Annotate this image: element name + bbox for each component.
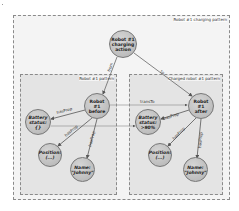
diagram-canvas: Robot #1 charging pattern Robot #1 patte… [0, 0, 239, 211]
node-name-before[interactable]: Name: "Johnny" [70, 157, 95, 182]
edge-label-robot-transto: transTo [140, 99, 155, 104]
node-robot-after[interactable]: Robot #1 after [188, 93, 214, 119]
node-label-battery-after: Battery status: >90% [139, 115, 158, 130]
node-label-name-after: Name: "Johnny" [185, 165, 207, 175]
edge-label-before-name: hasProp [87, 130, 96, 147]
node-label-charging-action: Robot #1 charging action [111, 37, 135, 52]
edge-label-to: to [159, 69, 166, 76]
edge-label-after-position: hasProp [171, 126, 186, 141]
edge-label-after-name: hasProp [197, 131, 203, 148]
node-label-robot-after: Robot #1 after [193, 99, 208, 114]
node-label-name-before: Name: "Johnny" [72, 165, 94, 175]
node-name-after[interactable]: Name: "Johnny" [183, 157, 208, 182]
node-battery-before[interactable]: Battery status: {} [25, 109, 51, 135]
node-charging-action[interactable]: Robot #1 charging action [109, 30, 137, 58]
node-label-robot-before: Robot #1 before [89, 99, 106, 114]
node-position-after[interactable]: Position: (...) [148, 143, 172, 167]
node-robot-before[interactable]: Robot #1 before [84, 93, 110, 119]
node-label-position-after: Position: (...) [149, 150, 171, 160]
edge-before-position [58, 118, 92, 146]
node-position-before[interactable]: Position: (...) [38, 143, 62, 167]
node-label-position-before: Position: (...) [39, 150, 61, 160]
node-label-battery-before: Battery status: {} [29, 115, 48, 130]
node-battery-after[interactable]: Battery status: >90% [135, 109, 161, 135]
edge-label-after-battery: hasProp [163, 111, 180, 121]
